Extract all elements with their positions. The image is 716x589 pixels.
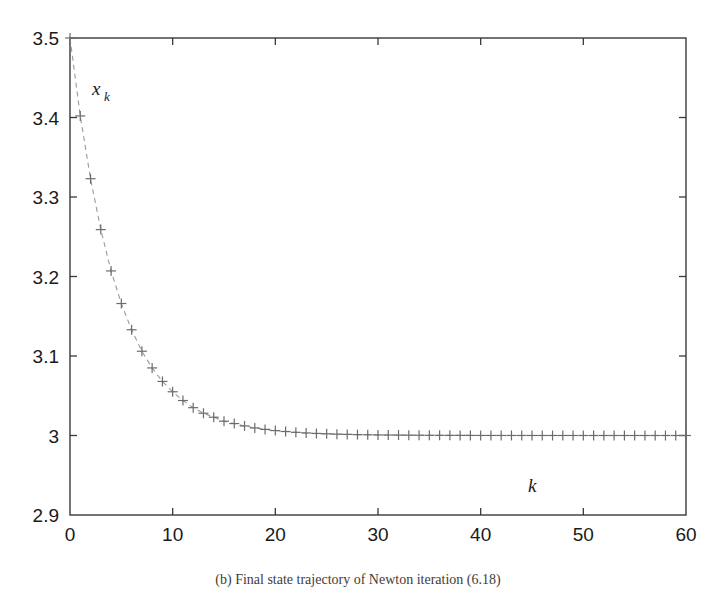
y-tick-label: 3.3 (33, 187, 59, 208)
figure-container: 0102030405060 2.933.13.23.33.43.5 x k k … (0, 0, 716, 589)
y-tick-label: 3.5 (33, 28, 59, 49)
x-tick-label: 30 (367, 524, 388, 545)
x-tick-label: 60 (675, 524, 696, 545)
x-tick-label: 20 (265, 524, 286, 545)
x-axis-label: k (528, 475, 537, 496)
y-axis-label: x (91, 78, 101, 99)
figure-caption: (b) Final state trajectory of Newton ite… (0, 570, 716, 589)
y-tick-label: 3.1 (33, 346, 59, 367)
x-tick-label: 0 (65, 524, 76, 545)
y-axis-label-subscript: k (104, 89, 110, 104)
y-tick-label: 3.4 (33, 108, 60, 129)
y-tick-label: 3 (48, 426, 59, 447)
convergence-plot: 0102030405060 2.933.13.23.33.43.5 x k k (0, 0, 716, 589)
x-tick-label: 40 (470, 524, 491, 545)
y-tick-label: 3.2 (33, 267, 59, 288)
x-tick-label: 10 (162, 524, 183, 545)
y-tick-label: 2.9 (33, 505, 59, 526)
x-tick-label: 50 (573, 524, 594, 545)
